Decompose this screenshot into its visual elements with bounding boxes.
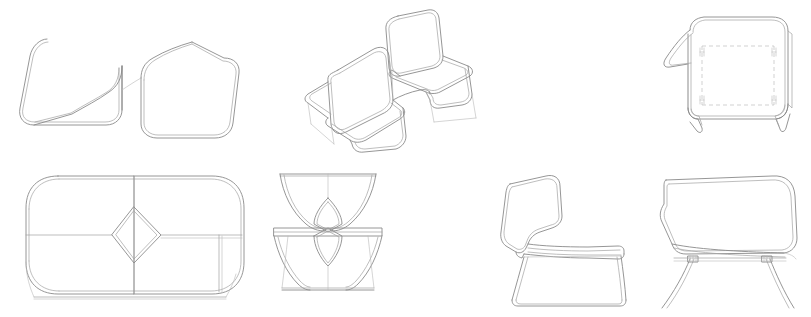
view-rear-elevation	[652, 8, 804, 142]
view-plan-full-bench-svg	[14, 164, 264, 306]
view-top-plan-linked-pair	[10, 22, 250, 142]
view-perspective-svg	[300, 4, 480, 156]
view-perspective-two-seat-bench	[300, 4, 480, 156]
drawing-sheet	[0, 0, 811, 317]
view-side-elevation-chair-svg	[488, 166, 644, 312]
view-front-elevation-seat-shell-svg	[640, 166, 808, 314]
view-top-plan-linked-pair-svg	[10, 22, 250, 142]
view-front-end-elevation-svg	[264, 162, 392, 304]
view-front-end-elevation	[264, 162, 392, 304]
view-front-elevation-seat-shell	[640, 166, 808, 314]
view-side-elevation-chair	[488, 166, 644, 312]
view-plan-full-bench	[14, 164, 264, 306]
view-rear-elevation-svg	[652, 8, 804, 142]
